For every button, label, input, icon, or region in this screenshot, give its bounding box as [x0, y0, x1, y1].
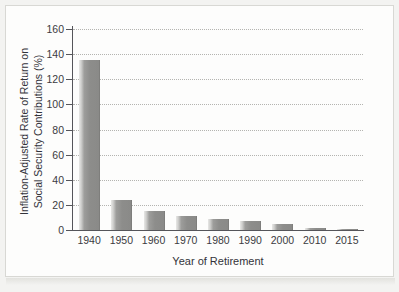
plot-area: [73, 29, 363, 230]
x-axis-title: Year of Retirement: [73, 255, 363, 267]
gridline: [73, 155, 363, 156]
y-axis-title: Inflation-Adjusted Rate of Return on Soc…: [18, 27, 45, 237]
y-axis-tick: [66, 29, 73, 30]
gridline: [73, 54, 363, 55]
gridline: [73, 79, 363, 80]
y-axis-tick: [66, 205, 73, 206]
bar: [208, 219, 229, 230]
y-axis-line: [72, 26, 73, 231]
gridline: [73, 29, 363, 30]
bar: [111, 200, 132, 230]
gridline: [73, 130, 363, 131]
y-axis-tick: [66, 180, 73, 181]
y-axis-title-line-2: Social Security Contributions (%): [31, 27, 45, 237]
y-axis-tick: [66, 230, 73, 231]
y-axis-title-line-1: Inflation-Adjusted Rate of Return on: [18, 48, 30, 215]
gridline: [73, 104, 363, 105]
x-axis-line: [72, 230, 364, 231]
y-axis-tick: [66, 54, 73, 55]
x-axis-tick-label: 2015: [327, 234, 367, 246]
y-axis-tick: [66, 79, 73, 80]
gridline: [73, 180, 363, 181]
bar: [176, 216, 197, 230]
y-axis-tick: [66, 155, 73, 156]
figure-root: 020406080100120140160 194019501960197019…: [0, 0, 399, 292]
bar: [79, 60, 100, 230]
page-shadow: [6, 278, 395, 285]
y-axis-tick: [66, 104, 73, 105]
y-axis-tick: [66, 130, 73, 131]
bar: [144, 211, 165, 230]
